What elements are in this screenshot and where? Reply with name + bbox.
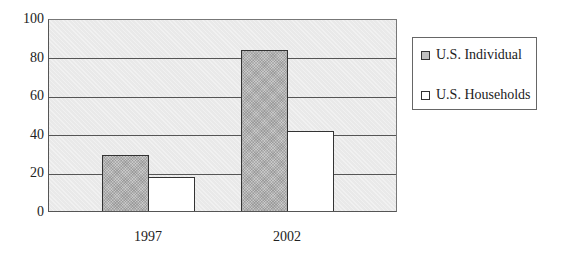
legend-item-households: U.S. Households xyxy=(421,87,531,103)
y-tick-label: 0 xyxy=(4,205,44,219)
y-tick-label: 40 xyxy=(4,128,44,142)
bar-2002-households xyxy=(287,131,334,211)
legend-swatch-icon xyxy=(421,51,430,60)
bar-1997-individual xyxy=(102,155,149,211)
bar-2002-individual xyxy=(241,50,288,211)
y-tick-label: 60 xyxy=(4,89,44,103)
x-tick-label: 2002 xyxy=(257,229,317,245)
y-tick-label: 100 xyxy=(4,12,44,26)
x-tick-label: 1997 xyxy=(118,229,178,245)
bar-chart: 100 80 60 40 20 0 1997 2002 U.S. Individ… xyxy=(0,0,564,253)
gridline-60 xyxy=(49,97,396,98)
bar-1997-households xyxy=(148,177,195,211)
legend-item-individual: U.S. Individual xyxy=(421,47,522,63)
legend-label: U.S. Individual xyxy=(436,47,522,63)
gridline-80 xyxy=(49,58,396,59)
y-tick-label: 20 xyxy=(4,166,44,180)
y-tick-label: 80 xyxy=(4,51,44,65)
gridline-40 xyxy=(49,135,396,136)
plot-area xyxy=(48,19,397,212)
legend: U.S. Individual U.S. Households xyxy=(412,37,537,110)
legend-label: U.S. Households xyxy=(436,87,531,103)
legend-swatch-icon xyxy=(421,91,430,100)
